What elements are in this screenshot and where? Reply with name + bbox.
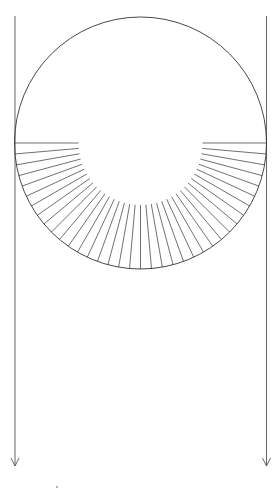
fan-line [22, 164, 82, 186]
diagram-canvas [0, 0, 278, 492]
left-down-arrow [11, 16, 19, 466]
fan-line [15, 148, 79, 154]
fan-line [119, 204, 130, 267]
fan-line [157, 203, 174, 265]
marks-group [56, 486, 58, 488]
fan-line [19, 159, 81, 176]
fan-line [180, 190, 221, 239]
fan-line [188, 183, 237, 224]
fan-line [202, 148, 266, 154]
fan-line [68, 194, 105, 246]
fan-line [44, 183, 93, 224]
fan-line [16, 154, 79, 165]
fan-line [202, 154, 265, 165]
fan-line [51, 187, 96, 232]
fan-line [176, 194, 213, 246]
fan-line [97, 201, 119, 261]
fan-line [184, 187, 229, 232]
fan-line [146, 205, 152, 269]
fan-line [191, 179, 243, 216]
fan-line [200, 159, 262, 176]
fan-line [60, 190, 101, 239]
fan-line [151, 204, 162, 267]
small-dot [56, 486, 58, 488]
fan-line [162, 201, 184, 261]
fan-line [37, 179, 89, 216]
fan-line [199, 164, 259, 186]
fan-line [108, 203, 125, 265]
right-down-arrow [263, 16, 271, 466]
fan-line [130, 205, 136, 269]
fan-lines-group [15, 143, 267, 269]
